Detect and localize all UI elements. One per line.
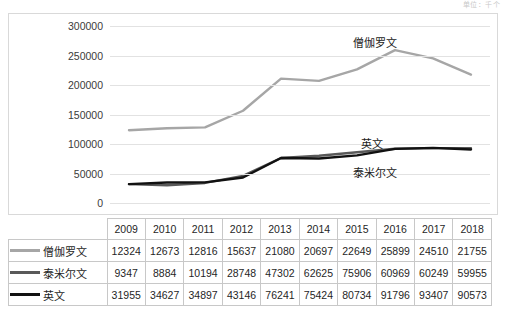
table-column-header: 2012 xyxy=(222,219,260,240)
table-row: 英文31955346273489743146762417542480734917… xyxy=(9,284,492,306)
table-cell: 80734 xyxy=(338,284,376,306)
table-header-row: 2009201020112012201320142015201620172018 xyxy=(9,219,492,240)
table-cell: 22649 xyxy=(338,240,376,262)
table-cell: 12816 xyxy=(184,240,222,262)
table-cell: 90573 xyxy=(453,284,492,306)
legend-label: 僧伽罗文 xyxy=(43,243,103,259)
y-axis-tick-label: 250000 xyxy=(68,50,103,62)
table-cell: 15637 xyxy=(222,240,260,262)
series-label-english: 英文 xyxy=(361,135,383,151)
table-cell: 75424 xyxy=(299,284,337,306)
table-column-header: 2016 xyxy=(376,219,414,240)
legend-label: 泰米尔文 xyxy=(43,265,103,281)
gridline: 150000 xyxy=(110,115,490,116)
table-cell: 60249 xyxy=(415,262,453,284)
legend-swatch-icon xyxy=(10,249,40,252)
table-cell: 21755 xyxy=(453,240,492,262)
table-cell: 12673 xyxy=(145,240,183,262)
table-cell: 21080 xyxy=(261,240,299,262)
table-cell: 28748 xyxy=(222,262,260,284)
gridline: 0 xyxy=(110,203,490,204)
table-row: 僧伽罗文123241267312816156372108020697226492… xyxy=(9,240,492,262)
table-cell: 59955 xyxy=(453,262,492,284)
table-row-header: 英文 xyxy=(9,284,108,306)
table-cell: 12324 xyxy=(107,240,145,262)
y-axis-tick-label: 300000 xyxy=(68,20,103,32)
gridline: 300000 xyxy=(110,26,490,27)
legend-swatch-icon xyxy=(10,271,40,274)
y-axis-tick-label: 100000 xyxy=(68,138,103,150)
table-cell: 20697 xyxy=(299,240,337,262)
table-row-header: 泰米尔文 xyxy=(9,262,108,284)
table-cell: 43146 xyxy=(222,284,260,306)
y-axis-tick-label: 0 xyxy=(97,197,103,209)
table-row-header: 僧伽罗文 xyxy=(9,240,108,262)
table-corner-cell xyxy=(9,219,108,240)
table-column-header: 2011 xyxy=(184,219,222,240)
table-column-header: 2017 xyxy=(415,219,453,240)
table-cell: 34897 xyxy=(184,284,222,306)
series-label-tamil: 泰米尔文 xyxy=(353,164,397,180)
table-cell: 75906 xyxy=(338,262,376,284)
gridline: 50000 xyxy=(110,174,490,175)
legend-swatch-icon xyxy=(10,293,40,296)
table-cell: 93407 xyxy=(415,284,453,306)
table-cell: 10194 xyxy=(184,262,222,284)
table-cell: 34627 xyxy=(145,284,183,306)
series-line xyxy=(129,148,471,184)
series-label-sinhala: 僧伽罗文 xyxy=(353,34,397,50)
data-table-wrap: 2009201020112012201320142015201620172018… xyxy=(8,218,492,306)
plot-area: 300000250000200000150000100000500000 xyxy=(110,26,490,203)
table-cell: 60969 xyxy=(376,262,414,284)
y-axis-tick-label: 200000 xyxy=(68,79,103,91)
gridline: 100000 xyxy=(110,144,490,145)
table-cell: 8884 xyxy=(145,262,183,284)
gridline: 200000 xyxy=(110,85,490,86)
table-column-header: 2015 xyxy=(338,219,376,240)
legend-label: 英文 xyxy=(43,287,103,303)
y-axis-tick-label: 50000 xyxy=(74,168,103,180)
table-cell: 76241 xyxy=(261,284,299,306)
series-line xyxy=(129,148,471,185)
table-cell: 9347 xyxy=(107,262,145,284)
table-cell: 31955 xyxy=(107,284,145,306)
table-cell: 91796 xyxy=(376,284,414,306)
gridline: 250000 xyxy=(110,56,490,57)
chart-frame: 300000250000200000150000100000500000 僧伽罗… xyxy=(8,13,498,215)
table-row: 泰米尔文934788841019428748473026262575906609… xyxy=(9,262,492,284)
table-body: 僧伽罗文123241267312816156372108020697226492… xyxy=(9,240,492,306)
table-column-header: 2009 xyxy=(107,219,145,240)
table-column-header: 2014 xyxy=(299,219,337,240)
table-cell: 24510 xyxy=(415,240,453,262)
table-cell: 62625 xyxy=(299,262,337,284)
table-cell: 47302 xyxy=(261,262,299,284)
data-table: 2009201020112012201320142015201620172018… xyxy=(8,218,492,306)
unit-note: 单位：千个 xyxy=(463,0,501,9)
y-axis-tick-label: 150000 xyxy=(68,109,103,121)
table-column-header: 2018 xyxy=(453,219,492,240)
table-cell: 25899 xyxy=(376,240,414,262)
table-column-header: 2010 xyxy=(145,219,183,240)
series-line xyxy=(129,50,471,130)
table-column-header: 2013 xyxy=(261,219,299,240)
